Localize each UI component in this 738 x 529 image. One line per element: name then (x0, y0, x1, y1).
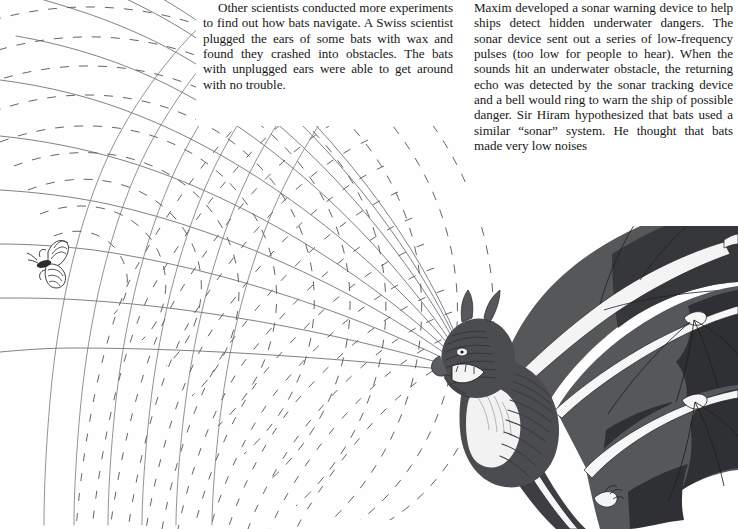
bat-ear-front (461, 290, 473, 322)
right-column-paragraph: Maxim developed a sonar warning device t… (474, 0, 733, 153)
echo-wave-fan-strokes (76, 68, 468, 529)
page-canvas: system to help them navigate. Other scie… (0, 0, 738, 529)
bat-ear-back (484, 290, 500, 322)
right-text-column: people, a British scientist, Sir Hiram M… (474, 0, 733, 153)
left-column-line-1: Other scientists conducted more experime… (203, 0, 453, 92)
bat-head (441, 318, 515, 398)
moth (27, 240, 68, 288)
left-text-column: system to help them navigate. Other scie… (203, 0, 453, 92)
bat (431, 196, 738, 529)
